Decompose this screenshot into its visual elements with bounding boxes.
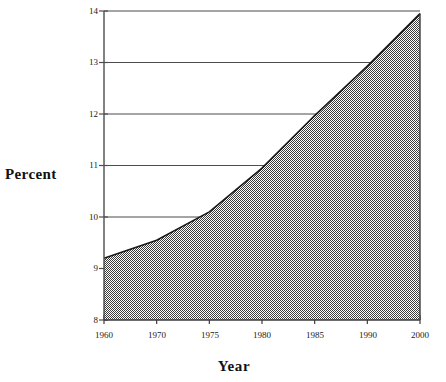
chart-container: Percent Year 14 13 12 11 10 9 8 1960 197…: [0, 0, 446, 382]
plot-area: [0, 0, 446, 382]
area-fill: [104, 14, 420, 320]
